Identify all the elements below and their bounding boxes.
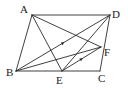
segment-DE — [62, 15, 110, 71]
label-A: A — [20, 3, 28, 15]
segment-CD — [100, 15, 110, 71]
label-D: D — [112, 8, 120, 20]
label-E: E — [56, 74, 63, 86]
label-B: B — [6, 66, 13, 78]
label-F: F — [104, 46, 110, 58]
segment-AF — [32, 15, 101, 47]
geometry-diagram: A D B C E F — [0, 0, 128, 88]
parallelogram-figure: A D B C E F — [0, 0, 128, 88]
segment-BF — [16, 47, 101, 71]
parallel-arrows-group — [61, 42, 83, 61]
label-C: C — [98, 72, 105, 84]
